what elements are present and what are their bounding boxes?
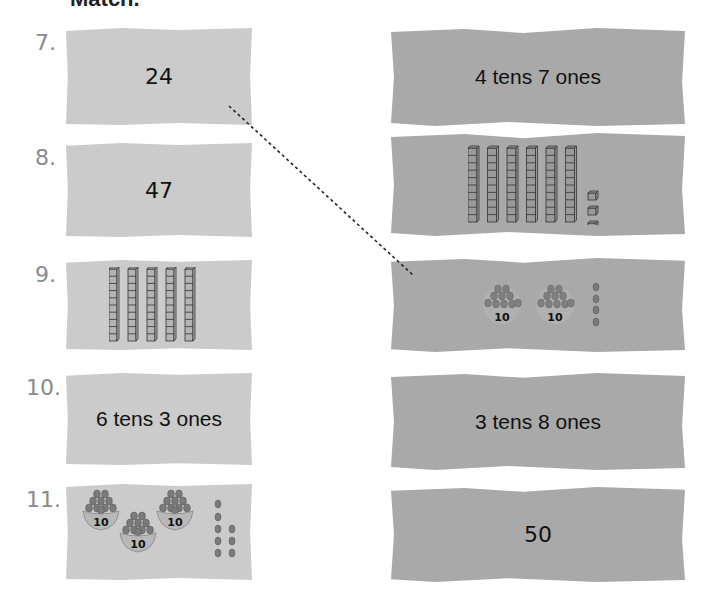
right-card-c[interactable]: 10 [391,258,685,352]
right-card-a[interactable]: 4 tens 7 ones [391,28,685,126]
item-number-8: 8. [35,145,56,170]
base-ten-blocks-icon [109,267,209,343]
base-ten-blocks-icon [468,145,608,225]
card-words-text: 3 tens 8 ones [475,410,601,434]
item-number-10: 10. [26,375,61,400]
card-number-text: 24 [145,64,173,89]
right-card-d[interactable]: 3 tens 8 ones [391,373,685,470]
right-card-e[interactable]: 50 [391,487,685,582]
item-number-11: 11. [26,487,61,512]
left-card-9[interactable] [66,260,252,350]
baskets-of-ten-icon: 10 [468,275,608,335]
left-card-11[interactable]: 10 [66,484,252,580]
item-number-7: 7. [35,30,56,55]
item-number-9: 9. [35,262,56,287]
card-number-text: 50 [524,522,552,547]
left-card-7[interactable]: 24 [66,28,252,125]
card-words-text: 6 tens 3 ones [96,407,222,431]
left-card-10[interactable]: 6 tens 3 ones [66,373,252,465]
card-number-text: 47 [145,178,173,203]
baskets-of-ten-icon: 10 [66,484,252,580]
card-words-text: 4 tens 7 ones [475,65,601,89]
page-heading: Match. [70,0,140,12]
left-card-8[interactable]: 47 [66,143,252,237]
right-card-b[interactable] [391,133,685,236]
